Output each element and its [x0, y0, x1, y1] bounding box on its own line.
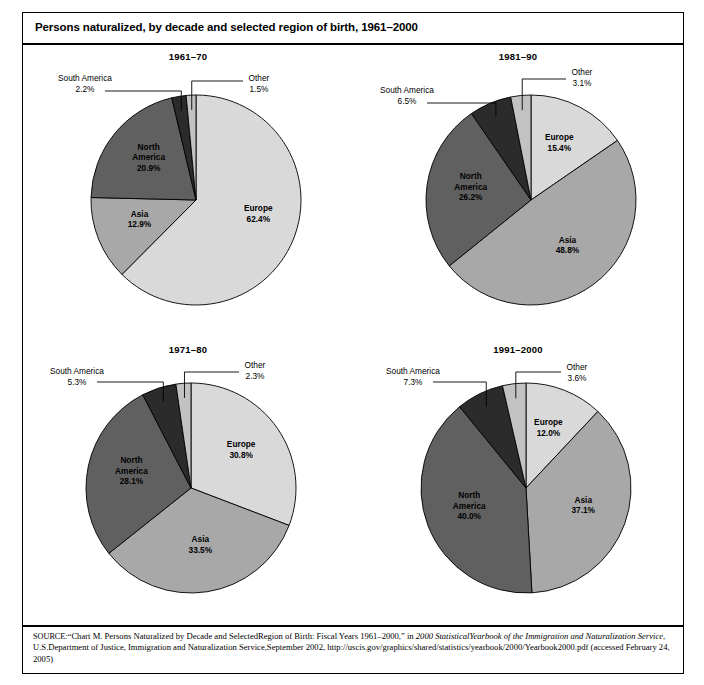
slice-value-south-america: 2.2%	[76, 84, 95, 94]
slice-label-asia: Asia	[559, 235, 577, 245]
slice-value-asia: 37.1%	[571, 505, 595, 515]
slice-label-asia: Asia	[131, 209, 149, 219]
pie-label-north-america: NorthAmerica26.2%	[426, 171, 516, 203]
source-italic: 2000 StatisticalYearbook of the Immigrat…	[416, 631, 663, 641]
slice-label-south-america: South America	[50, 366, 104, 376]
pie-panel-1961-70: 1961–70 Europe62.4%Asia12.9%NorthAmerica…	[23, 45, 353, 335]
slice-value-other: 2.3%	[246, 371, 265, 381]
pie-label-asia: Asia37.1%	[538, 495, 628, 516]
slice-value-south-america: 7.3%	[404, 377, 423, 387]
slice-value-other: 3.6%	[568, 373, 587, 383]
source-label: SOURCE:	[33, 632, 68, 641]
pie-panel-1991-2000: 1991–2000 Europe12.0%Asia37.1%NorthAmeri…	[353, 338, 683, 628]
pie-label-europe: Europe12.0%	[503, 417, 593, 438]
slice-label-asia: Asia	[192, 534, 210, 544]
pie-label-europe: Europe15.4%	[514, 132, 604, 153]
slice-label-south-america: South America	[386, 366, 440, 376]
page-title: Persons naturalized, by decade and selec…	[35, 21, 418, 33]
source-text-1: “Chart M. Persons Naturalized by Decade …	[68, 631, 416, 641]
slice-value-north-america: 28.1%	[120, 476, 144, 486]
figure-page: Persons naturalized, by decade and selec…	[0, 0, 704, 685]
source-note: SOURCE:“Chart M. Persons Naturalized by …	[33, 631, 677, 665]
slice-label-north-america: NorthAmerica	[454, 171, 487, 192]
slice-label-asia: Asia	[574, 495, 592, 505]
slice-label-europe: Europe	[244, 203, 273, 213]
pie-label-other: Other3.1%	[558, 67, 606, 88]
pie-panel-1971-80: 1971–80 Europe30.8%Asia33.5%NorthAmerica…	[23, 338, 353, 628]
pie-chart: Europe62.4%Asia12.9%NorthAmerica20.9%Sou…	[23, 45, 353, 335]
pie-label-other: Other3.6%	[553, 362, 601, 383]
slice-label-europe: Europe	[227, 439, 256, 449]
pie-label-europe: Europe62.4%	[213, 203, 303, 224]
pie-panel-1981-90: 1981–90 Europe15.4%Asia48.8%NorthAmerica…	[353, 45, 683, 335]
slice-value-europe: 12.0%	[537, 428, 561, 438]
pie-label-south-america: South America6.5%	[365, 85, 449, 106]
slice-value-other: 1.5%	[250, 84, 269, 94]
pie-label-europe: Europe30.8%	[196, 439, 286, 460]
pie-label-south-america: South America7.3%	[371, 366, 455, 387]
slice-value-south-america: 5.3%	[68, 377, 87, 387]
slice-value-europe: 62.4%	[247, 214, 271, 224]
pie-label-north-america: NorthAmerica40.0%	[424, 490, 514, 522]
pie-label-asia: Asia12.9%	[94, 209, 184, 230]
pie-label-other: Other1.5%	[235, 73, 283, 94]
pie-chart-grid: 1961–70 Europe62.4%Asia12.9%NorthAmerica…	[23, 45, 683, 625]
source-divider	[23, 625, 683, 627]
pie-label-south-america: South America5.3%	[35, 366, 119, 387]
pie-label-asia: Asia33.5%	[155, 534, 245, 555]
pie-label-other: Other2.3%	[231, 360, 279, 381]
pie-label-asia: Asia48.8%	[522, 235, 612, 256]
slice-value-north-america: 40.0%	[457, 511, 481, 521]
figure-frame: Persons naturalized, by decade and selec…	[22, 12, 684, 674]
slice-label-north-america: NorthAmerica	[453, 490, 486, 511]
pie-chart: Europe12.0%Asia37.1%NorthAmerica40.0%Sou…	[353, 338, 683, 628]
slice-value-asia: 33.5%	[189, 545, 213, 555]
slice-label-north-america: NorthAmerica	[115, 455, 148, 476]
slice-value-other: 3.1%	[573, 78, 592, 88]
pie-label-north-america: NorthAmerica20.9%	[104, 142, 194, 174]
slice-value-north-america: 26.2%	[459, 192, 483, 202]
pie-label-north-america: NorthAmerica28.1%	[86, 455, 176, 487]
slice-value-europe: 30.8%	[229, 450, 253, 460]
slice-label-south-america: South America	[58, 73, 112, 83]
pie-chart: Europe30.8%Asia33.5%NorthAmerica28.1%Sou…	[23, 338, 353, 628]
slice-label-north-america: NorthAmerica	[132, 142, 165, 163]
slice-value-asia: 48.8%	[556, 245, 580, 255]
slice-value-asia: 12.9%	[128, 219, 152, 229]
slice-label-other: Other	[245, 360, 266, 370]
slice-value-north-america: 20.9%	[137, 163, 161, 173]
slice-label-other: Other	[567, 362, 588, 372]
slice-value-south-america: 6.5%	[398, 96, 417, 106]
slice-label-europe: Europe	[534, 417, 563, 427]
pie-chart: Europe15.4%Asia48.8%NorthAmerica26.2%Sou…	[353, 45, 683, 335]
slice-label-south-america: South America	[380, 85, 434, 95]
slice-label-other: Other	[572, 67, 593, 77]
slice-value-europe: 15.4%	[548, 143, 572, 153]
slice-label-other: Other	[249, 73, 270, 83]
pie-label-south-america: South America2.2%	[43, 73, 127, 94]
slice-label-europe: Europe	[545, 132, 574, 142]
